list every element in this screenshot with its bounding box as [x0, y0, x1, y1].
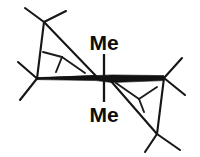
- right-inner-arm-b: [139, 99, 144, 112]
- right-inner-substituent-group: [116, 83, 157, 112]
- tbu-ul-methyl-1: [25, 8, 44, 22]
- left-inner-arm-b: [56, 57, 62, 72]
- tbu-lr-methyl-2: [157, 134, 180, 150]
- methyl-label-top: Me: [89, 31, 118, 54]
- left-ring-edge-diagonal: [44, 22, 96, 76]
- chemical-structure-figure: Me Me: [0, 0, 200, 157]
- tert-butyl-right-upper: [164, 58, 185, 95]
- tert-butyl-lower-right: [145, 134, 180, 152]
- tbu-ru-methyl-2: [164, 78, 185, 95]
- tbu-ul-methyl-2: [44, 11, 66, 22]
- central-bold-bond: [37, 75, 164, 83]
- tert-butyl-upper-left: [25, 8, 66, 22]
- right-ring-edge-vertical: [157, 78, 164, 134]
- tert-butyl-left-lower: [18, 62, 37, 100]
- structure-drawing-canvas: Me Me: [0, 0, 200, 157]
- tbu-ll-methyl-2: [20, 79, 37, 101]
- tbu-ru-methyl-1: [164, 58, 182, 78]
- tbu-lr-methyl-1: [145, 134, 157, 152]
- left-inner-arm-c: [62, 57, 85, 73]
- left-inner-substituent-group: [43, 52, 85, 73]
- left-inner-arm-a: [43, 52, 62, 57]
- methyl-label-bottom: Me: [89, 103, 118, 126]
- tbu-ll-methyl-1: [18, 62, 37, 79]
- right-inner-arm-a: [139, 87, 157, 99]
- left-ring-system: [37, 22, 96, 79]
- left-ring-edge-vertical: [37, 22, 44, 79]
